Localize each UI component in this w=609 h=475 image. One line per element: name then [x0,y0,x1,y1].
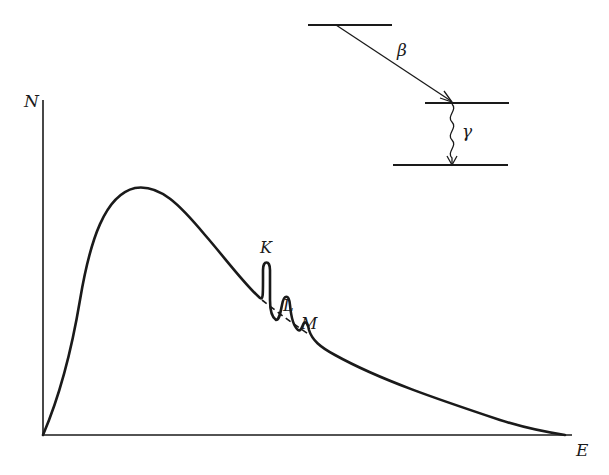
beta-label: β [397,42,407,59]
l-peak-label: L [283,298,294,314]
x-axis-label: E [576,442,588,459]
beta-arrowhead-icon [440,91,452,102]
y-axis-label: N [24,93,39,110]
spectrum-diagram [0,0,609,475]
gamma-transition-wavy-arrow [450,104,453,165]
k-peak-label: K [260,240,272,256]
beta-spectrum-curve [43,188,565,435]
m-peak-label: M [301,316,317,332]
gamma-label: γ [462,123,472,140]
beta-transition-arrow [336,25,451,101]
